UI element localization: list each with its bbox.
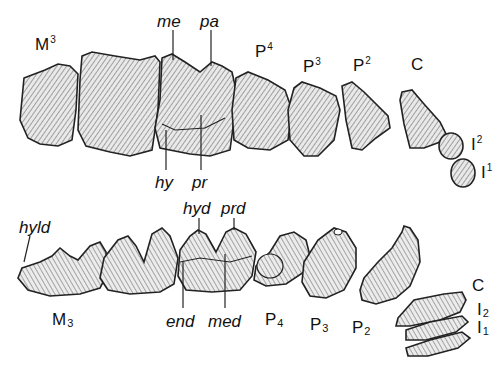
lower-p2-tooth (360, 226, 420, 304)
label-letter: M (35, 35, 49, 54)
label-index: 2 (483, 307, 489, 319)
label-upper-p3: P3 (303, 58, 321, 75)
label-index: 3 (67, 317, 73, 329)
upper-m1-tooth (155, 54, 236, 156)
label-letter: I (481, 163, 486, 182)
label-index: 1 (487, 162, 493, 173)
label-letter: P (303, 57, 314, 76)
label-lower-i2: I2 (477, 301, 489, 318)
label-hyd: hyd (183, 200, 210, 217)
label-upper-canine: C (411, 56, 423, 73)
label-index: 3 (322, 322, 328, 334)
upper-m2-tooth (78, 52, 160, 156)
label-index: 3 (50, 34, 56, 45)
label-lower-canine: C (472, 277, 484, 294)
upper-canine-tooth (400, 90, 446, 148)
upper-p3-tooth (288, 82, 340, 156)
label-med: med (208, 313, 241, 330)
label-upper-i2: I2 (471, 136, 482, 153)
label-letter: I (471, 135, 476, 154)
lower-m1-tooth (178, 228, 256, 292)
label-letter: I (477, 300, 482, 319)
label-letter: M (52, 310, 66, 329)
label-me: me (157, 13, 181, 30)
dentition-diagram: M3 me pa P4 P3 P2 C I2 I1 hy pr hyld hyd… (0, 0, 499, 368)
label-letter: P (255, 42, 266, 61)
lower-p3-tooth (302, 228, 356, 298)
upper-i1-tooth (451, 159, 475, 187)
label-letter: P (352, 318, 363, 337)
upper-p2-tooth (342, 82, 390, 150)
upper-m3-tooth (20, 64, 78, 146)
label-prd: prd (221, 200, 246, 217)
label-letter: P (310, 315, 321, 334)
lower-p4-tooth (254, 232, 310, 286)
label-lower-i1: I1 (477, 319, 489, 336)
label-upper-i1: I1 (481, 164, 492, 181)
label-upper-p2: P2 (353, 57, 371, 74)
label-pa: pa (200, 13, 219, 30)
label-letter: P (265, 310, 276, 329)
label-lower-m3: M3 (52, 311, 73, 328)
label-index: 2 (477, 134, 483, 145)
label-index: 4 (277, 317, 283, 329)
label-lower-p3: P3 (310, 316, 328, 333)
label-end: end (166, 313, 194, 330)
label-letter: P (353, 56, 364, 75)
label-index: 2 (364, 325, 370, 337)
upper-p4-tooth (232, 72, 292, 150)
label-index: 4 (267, 41, 273, 52)
label-lower-p4: P4 (265, 311, 283, 328)
lower-m2-tooth (100, 228, 178, 294)
label-index: 3 (315, 56, 321, 67)
hyld-leader-line (24, 236, 30, 262)
label-lower-p2: P2 (352, 319, 370, 336)
label-upper-p4: P4 (255, 43, 273, 60)
upper-i2-tooth (439, 133, 463, 159)
label-index: 2 (365, 55, 371, 66)
lower-m3-tooth (18, 242, 108, 296)
label-letter: I (477, 318, 482, 337)
teeth-drawing (0, 0, 499, 368)
label-pr: pr (192, 174, 207, 191)
label-index: 1 (483, 325, 489, 337)
label-hyld: hyld (19, 219, 50, 236)
label-upper-m3: M3 (35, 36, 56, 53)
label-hy: hy (155, 174, 173, 191)
